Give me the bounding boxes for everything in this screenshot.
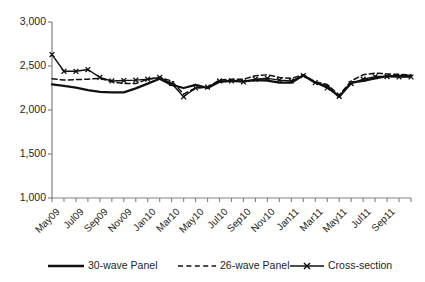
series-layer	[50, 52, 414, 99]
series-marker-x	[181, 94, 186, 99]
axis-layer	[48, 22, 411, 202]
y-axis-tick-label: 2,500	[2, 59, 46, 71]
y-axis-tick-label: 1,000	[2, 191, 46, 203]
y-axis-tick-label: 3,000	[2, 15, 46, 27]
series-line-3	[52, 55, 411, 97]
chart-container: 1,0001,5002,0002,5003,000 May09Jul09Sep0…	[0, 0, 425, 282]
y-axis-tick-label: 1,500	[2, 147, 46, 159]
y-axis-tick-label: 2,000	[2, 103, 46, 115]
legend-label-2: 26-wave Panel	[220, 259, 289, 271]
legend-label-1: 30-wave Panel	[88, 259, 157, 271]
legend-label-3: Cross-section	[328, 259, 392, 271]
